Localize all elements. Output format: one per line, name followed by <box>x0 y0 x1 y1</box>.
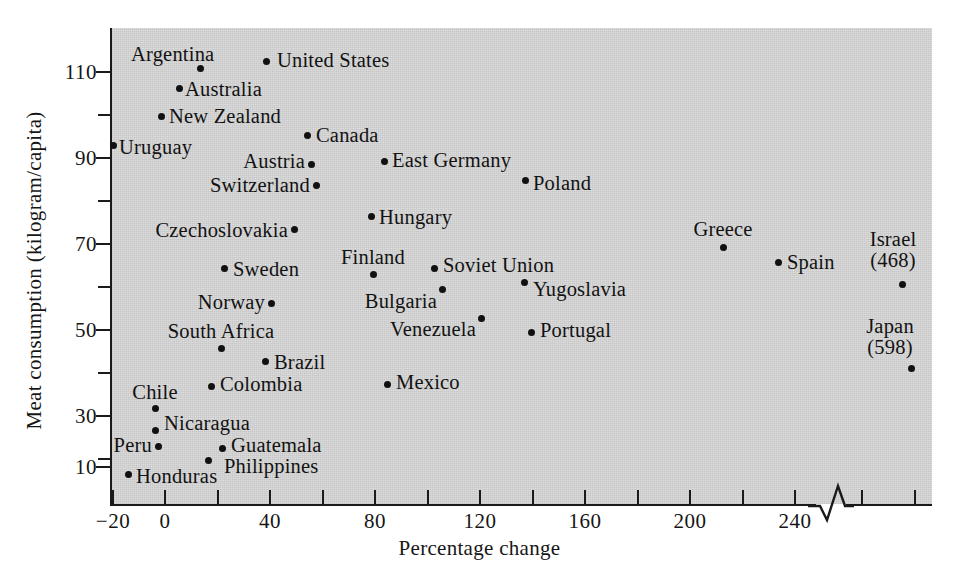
y-axis-title: Meat consumption (kilogram/capita) <box>22 41 47 501</box>
data-point-yugoslavia[interactable] <box>521 279 528 286</box>
data-point-mexico[interactable] <box>384 381 391 388</box>
data-point-spain[interactable] <box>775 259 782 266</box>
y-axis-tick-label: 90 <box>75 146 97 171</box>
data-point-label-peru: Peru <box>114 435 152 456</box>
data-point-label-brazil: Brazil <box>274 352 325 373</box>
data-point-label-australia: Australia <box>185 79 262 100</box>
data-point-guatemala[interactable] <box>219 445 226 452</box>
data-point-label-east-germany: East Germany <box>392 150 511 171</box>
data-point-label-new-zealand: New Zealand <box>169 106 281 127</box>
data-point-south-africa[interactable] <box>218 345 225 352</box>
data-point-label-czechoslovakia: Czechoslovakia <box>155 220 288 241</box>
x-axis-tick-label: 80 <box>364 509 386 534</box>
y-axis-tick <box>96 157 110 159</box>
scatter-plot-figure: −20040801201602002401109070503010 Argent… <box>0 0 959 575</box>
x-axis-tick-label: 40 <box>259 509 281 534</box>
x-axis-line-right <box>846 504 932 506</box>
data-point-label-yugoslavia: Yugoslavia <box>533 279 626 300</box>
y-axis-tick-label: 70 <box>75 232 97 257</box>
x-axis-tick <box>479 490 481 504</box>
data-point-label-uruguay: Uruguay <box>119 137 192 158</box>
x-axis-tick-label: 240 <box>779 509 812 534</box>
data-point-hungary[interactable] <box>368 213 375 220</box>
data-point-sweden[interactable] <box>221 265 228 272</box>
data-point-east-germany[interactable] <box>381 158 388 165</box>
data-point-norway[interactable] <box>268 300 275 307</box>
x-axis-tick <box>322 490 324 504</box>
x-axis-tick <box>164 490 166 504</box>
x-axis-tick <box>374 490 376 504</box>
y-axis-tick-label: 50 <box>75 318 97 343</box>
data-point-australia[interactable] <box>176 85 183 92</box>
data-point-portugal[interactable] <box>528 329 535 336</box>
data-point-label-philippines: Philippines <box>224 456 318 477</box>
y-axis-tick <box>98 114 110 116</box>
data-point-soviet-union[interactable] <box>431 265 438 272</box>
x-axis-tick <box>861 490 863 504</box>
data-point-label-poland: Poland <box>533 173 591 194</box>
data-point-label-venezuela: Venezuela <box>390 319 476 340</box>
data-point-switzerland[interactable] <box>313 182 320 189</box>
data-point-label-switzerland: Switzerland <box>210 175 310 196</box>
y-axis-tick <box>98 286 110 288</box>
data-point-venezuela[interactable] <box>478 315 485 322</box>
data-point-canada[interactable] <box>304 132 311 139</box>
x-axis-tick <box>794 490 796 504</box>
data-point-honduras[interactable] <box>125 471 132 478</box>
data-point-label-honduras: Honduras <box>136 466 217 487</box>
x-axis-tick-label: 120 <box>464 509 497 534</box>
x-axis-tick-label: −20 <box>96 509 130 534</box>
data-point-japan[interactable] <box>908 365 915 372</box>
data-point-label-austria: Austria <box>243 151 305 172</box>
data-point-greece[interactable] <box>720 244 727 251</box>
x-axis-tick-label: 160 <box>569 509 602 534</box>
data-point-austria[interactable] <box>308 161 315 168</box>
data-point-czechoslovakia[interactable] <box>291 226 298 233</box>
data-point-label-argentina: Argentina <box>131 44 214 65</box>
data-point-label-chile: Chile <box>132 382 177 403</box>
data-point-finland[interactable] <box>370 271 377 278</box>
data-point-philippines[interactable] <box>205 457 212 464</box>
data-point-new-zealand[interactable] <box>158 113 165 120</box>
data-point-brazil[interactable] <box>262 358 269 365</box>
y-axis-tick <box>96 329 110 331</box>
data-point-label-japan: Japan(598) <box>866 316 914 359</box>
data-point-label-portugal: Portugal <box>540 320 611 341</box>
x-axis-tick <box>427 490 429 504</box>
y-axis-tick <box>98 200 110 202</box>
data-point-label-sweden: Sweden <box>233 259 299 280</box>
data-point-nicaragua[interactable] <box>152 427 159 434</box>
data-point-poland[interactable] <box>522 177 529 184</box>
data-point-chile[interactable] <box>152 405 159 412</box>
data-point-label-greece: Greece <box>693 219 752 240</box>
y-axis-tick <box>96 243 110 245</box>
data-point-label-south-africa: South Africa <box>168 321 275 342</box>
y-axis-tick-label: 110 <box>65 60 97 85</box>
y-axis-tick <box>98 458 110 460</box>
x-axis-tick <box>637 490 639 504</box>
x-axis-tick <box>532 490 534 504</box>
data-point-label-finland: Finland <box>341 247 405 268</box>
y-axis-tick <box>98 372 110 374</box>
x-axis-tick <box>742 490 744 504</box>
data-point-label-colombia: Colombia <box>220 374 302 395</box>
data-point-label-united-states: United States <box>277 50 390 71</box>
data-point-label-soviet-union: Soviet Union <box>443 255 554 276</box>
x-axis-tick-label: 200 <box>674 509 707 534</box>
y-axis-tick <box>96 415 110 417</box>
data-point-uruguay[interactable] <box>110 142 117 149</box>
data-point-colombia[interactable] <box>208 383 215 390</box>
x-axis-tick <box>112 490 114 504</box>
data-point-label-guatemala: Guatemala <box>231 435 322 456</box>
y-axis-tick-label: 10 <box>75 455 97 480</box>
data-point-label-canada: Canada <box>316 125 379 146</box>
data-point-peru[interactable] <box>155 443 162 450</box>
data-point-united-states[interactable] <box>263 58 270 65</box>
data-point-israel[interactable] <box>899 281 906 288</box>
x-axis-tick <box>689 490 691 504</box>
data-point-label-israel: Israel(468) <box>870 229 917 272</box>
y-axis-tick-label: 30 <box>75 404 97 429</box>
data-point-label-bulgaria: Bulgaria <box>365 291 437 312</box>
data-point-label-nicaragua: Nicaragua <box>164 413 250 434</box>
data-point-bulgaria[interactable] <box>439 286 446 293</box>
